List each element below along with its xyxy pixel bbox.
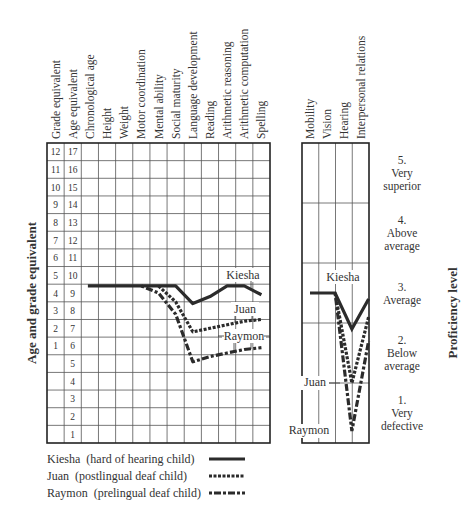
column-header: Arithmetic computation bbox=[238, 29, 251, 139]
proficiency-level-label: average bbox=[384, 240, 420, 253]
annotation-raymon: Raymon bbox=[289, 423, 330, 437]
proficiency-level-label: 5. bbox=[398, 154, 407, 166]
legend-swatch-dotted-icon bbox=[207, 472, 247, 480]
left-column-headers: Grade equivalentAge equivalentChronologi… bbox=[50, 29, 269, 139]
grade-label: 2 bbox=[53, 324, 58, 334]
annotation-juan: Juan bbox=[234, 302, 256, 316]
proficiency-level-label: 4. bbox=[398, 214, 407, 226]
age-label: 6 bbox=[70, 341, 75, 351]
proficiency-level-label: Very bbox=[391, 407, 413, 420]
column-header: Mental ability bbox=[153, 74, 166, 139]
grade-label: 4 bbox=[53, 289, 58, 299]
legend-swatch-solid-icon bbox=[207, 455, 247, 463]
age-label: 10 bbox=[68, 271, 78, 281]
proficiency-level-label: Above bbox=[387, 227, 418, 239]
age-label: 14 bbox=[68, 200, 78, 210]
column-header: Spelling bbox=[255, 100, 268, 139]
legend-label: Kiesha (hard of hearing child) bbox=[47, 451, 195, 468]
grade-label: 11 bbox=[51, 165, 60, 175]
age-label: 17 bbox=[68, 147, 78, 157]
age-label: 15 bbox=[68, 183, 78, 193]
grade-label: 10 bbox=[51, 183, 61, 193]
left-y-axis-label: Age and grade equivalent bbox=[24, 221, 39, 364]
proficiency-level-label: Average bbox=[383, 294, 421, 307]
annotation-juan: Juan bbox=[304, 375, 326, 389]
legend: Kiesha (hard of hearing child) Juan (pos… bbox=[47, 451, 277, 502]
age-label: 2 bbox=[70, 412, 75, 422]
proficiency-level-label: 1. bbox=[398, 394, 407, 406]
chart-canvas: Grade equivalentAge equivalentChronologi… bbox=[0, 0, 472, 512]
annotation-kiesha: Kiesha bbox=[226, 268, 260, 282]
annotation-raymon: Raymon bbox=[224, 329, 265, 343]
legend-swatch-dash-dot-icon bbox=[207, 489, 247, 497]
age-label: 3 bbox=[70, 394, 75, 404]
right-y-axis-label: Proficiency level bbox=[445, 267, 460, 358]
column-header: Chronological age bbox=[84, 54, 97, 139]
annotation-kiesha: Kiesha bbox=[326, 270, 360, 284]
column-header: Age equivalent bbox=[67, 68, 80, 139]
legend-label: Juan (postlingual deaf child) bbox=[47, 468, 187, 485]
column-header: Hearing bbox=[338, 102, 351, 139]
proficiency-level-label: average bbox=[384, 360, 420, 373]
age-label: 1 bbox=[70, 430, 75, 440]
column-header: Language development bbox=[187, 31, 200, 139]
legend-item-juan: Juan (postlingual deaf child) bbox=[47, 468, 277, 485]
grade-label: 6 bbox=[53, 253, 58, 263]
age-label: 13 bbox=[68, 218, 78, 228]
proficiency-level-label: 2. bbox=[398, 334, 407, 346]
proficiency-level-label: Very bbox=[391, 167, 413, 180]
column-header: Reading bbox=[204, 100, 217, 139]
column-header: Vision bbox=[321, 109, 333, 139]
column-header: Interpersonal relations bbox=[355, 35, 368, 139]
column-header: Weight bbox=[118, 105, 131, 139]
grade-label: 9 bbox=[53, 200, 58, 210]
column-header: Grade equivalent bbox=[50, 59, 63, 139]
age-label: 12 bbox=[68, 236, 78, 246]
grade-label: 1 bbox=[53, 341, 58, 351]
age-label: 11 bbox=[68, 253, 77, 263]
age-label: 9 bbox=[70, 289, 75, 299]
grade-label: 8 bbox=[53, 218, 58, 228]
column-header: Motor coordination bbox=[135, 49, 147, 139]
proficiency-level-label: 3. bbox=[398, 281, 407, 293]
column-header: Social maturity bbox=[170, 68, 183, 139]
proficiency-level-labels: 5.Verysuperior4.Aboveaverage3.Average2.B… bbox=[381, 154, 423, 432]
grade-label: 3 bbox=[53, 306, 58, 316]
legend-item-raymon: Raymon (prelingual deaf child) bbox=[47, 485, 277, 502]
proficiency-level-label: Below bbox=[387, 347, 418, 359]
age-label: 16 bbox=[68, 165, 78, 175]
right-column-headers: MobilityVisionHearingInterpersonal relat… bbox=[304, 35, 367, 139]
grade-label: 7 bbox=[53, 236, 58, 246]
age-label: 5 bbox=[70, 359, 75, 369]
age-label: 4 bbox=[70, 377, 75, 387]
column-header: Height bbox=[101, 107, 114, 139]
grade-label: 5 bbox=[53, 271, 58, 281]
age-label: 8 bbox=[70, 306, 75, 316]
proficiency-level-label: defective bbox=[381, 420, 423, 432]
age-label: 7 bbox=[70, 324, 75, 334]
grade-label: 12 bbox=[51, 147, 61, 157]
left-annotations: KieshaJuanRaymon bbox=[218, 268, 270, 350]
legend-label: Raymon (prelingual deaf child) bbox=[47, 485, 201, 502]
left-grid bbox=[47, 143, 270, 443]
column-header: Arithmetic reasoning bbox=[221, 41, 234, 139]
column-header: Mobility bbox=[304, 98, 317, 139]
legend-item-kiesha: Kiesha (hard of hearing child) bbox=[47, 451, 277, 468]
proficiency-level-label: superior bbox=[383, 180, 421, 193]
